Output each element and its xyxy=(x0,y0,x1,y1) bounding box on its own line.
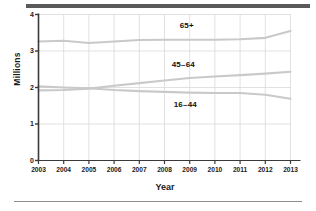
x-tick-label: 2006 xyxy=(101,166,127,173)
plot-area xyxy=(0,0,316,211)
y-tick-label: 2 xyxy=(22,84,34,91)
series-label-65plus: 65+ xyxy=(180,21,194,30)
y-tick-label: 1 xyxy=(22,120,34,127)
x-tick-label: 2009 xyxy=(177,166,203,173)
x-tick-label: 2003 xyxy=(26,166,52,173)
line-chart-svg xyxy=(0,0,316,211)
x-tick-label: 2013 xyxy=(278,166,304,173)
y-tick-label: 3 xyxy=(22,47,34,54)
x-tick-label: 2004 xyxy=(51,166,77,173)
y-tick-label: 0 xyxy=(22,157,34,164)
series-label-45-64: 45–64 xyxy=(172,60,195,69)
x-axis-title: Year xyxy=(38,182,292,192)
y-tick-label: 4 xyxy=(22,11,34,18)
x-tick-label: 2008 xyxy=(152,166,178,173)
chart-figure: Millions Year 01234 20032004200520062007… xyxy=(0,0,316,211)
x-tick-label: 2011 xyxy=(227,166,253,173)
x-tick-label: 2010 xyxy=(202,166,228,173)
x-tick-label: 2012 xyxy=(252,166,278,173)
x-tick-label: 2005 xyxy=(76,166,102,173)
y-axis-title: Millions xyxy=(12,39,22,99)
x-tick-label: 2007 xyxy=(126,166,152,173)
series-label-16-44: 16–44 xyxy=(174,100,197,109)
